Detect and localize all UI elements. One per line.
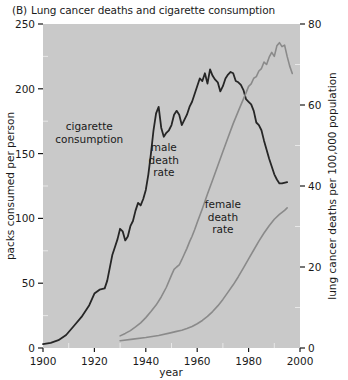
y2-axis-title: lung cancer deaths per 100,000 populatio… xyxy=(326,72,338,300)
male-death-rate-label: maledeathrate xyxy=(149,141,179,178)
y-axis-title: packs consumed per person xyxy=(4,112,16,260)
chart-canvas: 1900192019401960198020000501001502002500… xyxy=(0,0,348,380)
x-tick-label-1980: 1980 xyxy=(235,355,262,367)
figure-panel: (B)Lung cancer deaths and cigarette cons… xyxy=(0,0,348,380)
female-death-rate-label-line-1: female xyxy=(205,198,241,210)
male-death-rate-label-line-2: death xyxy=(149,154,179,166)
y2-tick-label-0: 0 xyxy=(308,342,315,354)
y-tick-label-50: 50 xyxy=(22,277,35,289)
cigarette-consumption-label-line-1: cigarette xyxy=(66,120,113,132)
x-tick-label-1920: 1920 xyxy=(81,355,108,367)
y-tick-label-100: 100 xyxy=(15,212,35,224)
male-death-rate-label-line-1: male xyxy=(151,141,177,153)
y2-tick-label-80: 80 xyxy=(308,18,321,30)
male-death-rate-label-line-3: rate xyxy=(153,166,174,178)
plot-background-group xyxy=(43,24,300,348)
x-tick-label-1940: 1940 xyxy=(132,355,159,367)
y-tick-label-150: 150 xyxy=(15,148,35,160)
plot-background xyxy=(43,24,300,348)
y2-tick-label-20: 20 xyxy=(308,261,321,273)
female-death-rate-label-line-3: rate xyxy=(212,223,233,235)
x-axis-title: year xyxy=(159,366,183,378)
x-tick-label-1900: 1900 xyxy=(30,355,57,367)
female-death-rate-label-line-2: death xyxy=(208,211,238,223)
x-tick-label-2000: 2000 xyxy=(287,355,314,367)
y2-tick-label-60: 60 xyxy=(308,99,321,111)
cigarette-consumption-label-line-2: consumption xyxy=(55,133,123,145)
y-tick-label-0: 0 xyxy=(28,342,35,354)
y-tick-label-200: 200 xyxy=(15,83,35,95)
y-tick-label-250: 250 xyxy=(15,18,35,30)
x-tick-label-1960: 1960 xyxy=(184,355,211,367)
y2-tick-label-40: 40 xyxy=(308,180,321,192)
